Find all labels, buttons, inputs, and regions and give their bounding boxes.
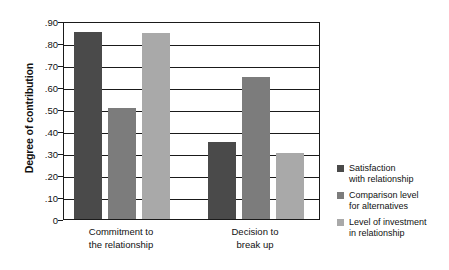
legend-swatch-icon xyxy=(337,219,344,226)
bar xyxy=(108,108,136,219)
gridline xyxy=(64,67,319,68)
legend-label: Satisfactionwith relationship xyxy=(349,163,414,185)
bar xyxy=(276,153,304,219)
bar xyxy=(208,142,236,219)
gridline xyxy=(64,133,319,134)
y-axis-tick-label: .60 xyxy=(24,83,58,94)
legend-item: Satisfactionwith relationship xyxy=(337,163,447,185)
plot-area xyxy=(63,22,320,220)
bar xyxy=(242,77,270,219)
y-axis-tick-label: .70 xyxy=(24,61,58,72)
y-axis-tick-label: .80 xyxy=(24,39,58,50)
y-axis-tick-mark xyxy=(58,220,63,221)
x-axis-group-label: Decision tobreak up xyxy=(185,226,325,251)
bar xyxy=(142,33,170,219)
x-axis-group-label-line1: Decision to xyxy=(185,226,325,239)
y-axis-tick-label: .20 xyxy=(24,171,58,182)
y-axis-tick-label: .50 xyxy=(24,105,58,116)
x-axis-group-label-line1: Commitment to xyxy=(51,226,191,239)
legend-label: Level of investmentin relationship xyxy=(349,217,427,239)
x-axis-group-label-line2: break up xyxy=(185,239,325,252)
y-axis-tick-label: .40 xyxy=(24,127,58,138)
legend-label-line1: Level of investment xyxy=(349,217,427,228)
gridline xyxy=(64,45,319,46)
legend-label-line2: in relationship xyxy=(349,228,427,239)
legend: Satisfactionwith relationshipComparison … xyxy=(337,163,447,244)
y-axis-tick-label: .30 xyxy=(24,149,58,160)
x-axis-group-label-line2: the relationship xyxy=(51,239,191,252)
legend-label-line2: for alternatives xyxy=(349,201,419,212)
legend-label-line1: Comparison level xyxy=(349,190,419,201)
bar-chart-figure: Degree of contribution .90.80.70.60.50.4… xyxy=(0,0,449,270)
y-axis-tick-label: .10 xyxy=(24,193,58,204)
legend-item: Level of investmentin relationship xyxy=(337,217,447,239)
y-axis-tick-label: .90 xyxy=(24,17,58,28)
x-axis-group-label: Commitment tothe relationship xyxy=(51,226,191,251)
legend-item: Comparison levelfor alternatives xyxy=(337,190,447,212)
legend-label-line2: with relationship xyxy=(349,174,414,185)
bar xyxy=(74,32,102,219)
legend-swatch-icon xyxy=(337,192,344,199)
y-axis-tick-label: 0 xyxy=(24,215,58,226)
legend-label-line1: Satisfaction xyxy=(349,163,414,174)
gridline xyxy=(64,111,319,112)
gridline xyxy=(64,89,319,90)
legend-label: Comparison levelfor alternatives xyxy=(349,190,419,212)
legend-swatch-icon xyxy=(337,165,344,172)
